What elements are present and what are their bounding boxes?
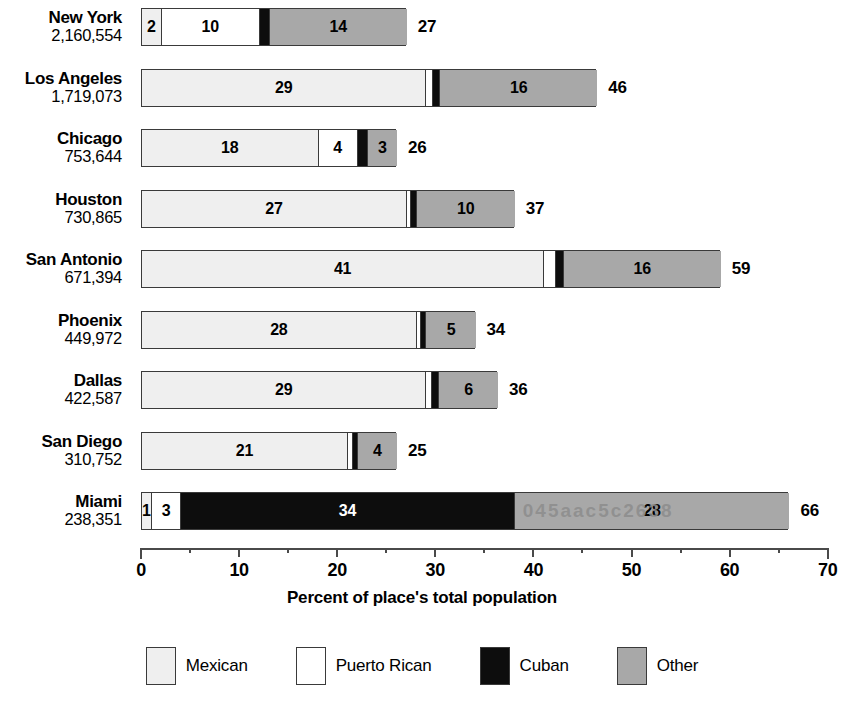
row-total-label: 37 (526, 190, 545, 228)
segment-value-label: 1 (142, 503, 151, 519)
bar-segment-mexican[interactable]: 41 (142, 251, 544, 287)
row-label: Dallas422,587 (0, 365, 128, 415)
axis-tick-label: 30 (426, 560, 445, 581)
city-population: 730,865 (64, 209, 122, 227)
row-label: New York2,160,554 (0, 2, 128, 52)
bar-segment-cuban[interactable] (433, 70, 440, 106)
bar-segment-other[interactable]: 4 (358, 433, 397, 469)
bar-segment-mexican[interactable]: 29 (142, 372, 426, 408)
bar-segment-puerto-rican[interactable]: 3 (152, 493, 181, 529)
stacked-bar[interactable]: 1334045aac5c263828 (141, 492, 788, 530)
row-label: San Antonio671,394 (0, 244, 128, 294)
bar-segment-puerto-rican[interactable]: 4 (319, 130, 358, 166)
bar-segment-other[interactable]: 6 (439, 372, 498, 408)
city-population: 422,587 (64, 390, 122, 408)
stacked-bar[interactable]: 296 (141, 371, 497, 409)
row-total-label: 25 (408, 432, 427, 470)
legend-swatch-mexican (146, 647, 176, 685)
bar-segment-other[interactable]: 3 (368, 130, 397, 166)
bar-row: Dallas422,58729636 (0, 365, 844, 415)
segment-value-label: 14 (329, 19, 346, 35)
bar-segment-other[interactable]: 16 (440, 70, 597, 106)
axis-tick (140, 548, 142, 559)
legend-item[interactable]: Puerto Rican (296, 647, 432, 685)
row-total-label: 27 (418, 8, 437, 46)
stacked-bar[interactable]: 2710 (141, 190, 514, 228)
axis-tick (581, 548, 583, 553)
bar-segment-other[interactable]: 5 (426, 312, 475, 348)
bar-segment-mexican[interactable]: 27 (142, 191, 407, 227)
city-population: 1,719,073 (51, 88, 122, 106)
bar-segment-cuban[interactable]: 1 (260, 9, 270, 45)
legend-item[interactable]: Mexican (146, 647, 248, 685)
segment-value-label: 28 (270, 322, 287, 338)
city-name: Dallas (74, 372, 122, 390)
stacked-bar[interactable]: 4116 (141, 250, 720, 288)
axis-tick (680, 548, 682, 553)
axis-tick (287, 548, 289, 553)
axis-tick (729, 548, 731, 557)
row-label: San Diego310,752 (0, 426, 128, 476)
x-axis-title: Percent of place's total population (0, 588, 844, 608)
bar-segment-other[interactable]: 045aac5c263828 (515, 493, 790, 529)
stacked-bar[interactable]: 1843 (141, 129, 396, 167)
city-name: Miami (75, 493, 122, 511)
city-name: Houston (55, 191, 122, 209)
axis-tick (631, 548, 633, 557)
segment-value-label: 27 (265, 201, 282, 217)
bar-segment-mexican[interactable]: 18 (142, 130, 319, 166)
legend-item[interactable]: Cuban (480, 647, 569, 685)
stacked-bar[interactable]: 210114 (141, 8, 406, 46)
bar-segment-cuban[interactable] (556, 251, 564, 287)
bar-segment-mexican[interactable]: 21 (142, 433, 348, 469)
bar-segment-cuban[interactable]: 34 (181, 493, 515, 529)
bar-segment-puerto-rican[interactable] (426, 70, 433, 106)
city-population: 753,644 (64, 148, 122, 166)
bar-segment-puerto-rican[interactable]: 10 (162, 9, 260, 45)
axis-tick (336, 548, 338, 557)
segment-value-label: 3 (162, 503, 171, 519)
bar-segment-mexican[interactable]: 2 (142, 9, 162, 45)
stacked-bar[interactable]: 214 (141, 432, 396, 470)
bar-segment-other[interactable]: 14 (270, 9, 407, 45)
bar-segment-mexican[interactable]: 29 (142, 70, 426, 106)
bar-segment-other[interactable]: 10 (417, 191, 515, 227)
legend-label: Mexican (186, 656, 248, 676)
legend-swatch-cuban (480, 647, 510, 685)
axis-tick-label: 70 (818, 560, 837, 581)
stacked-bar[interactable]: 285 (141, 311, 475, 349)
row-label: Los Angeles1,719,073 (0, 63, 128, 113)
city-population: 449,972 (64, 330, 122, 348)
city-name: Chicago (57, 130, 122, 148)
city-name: Phoenix (58, 312, 122, 330)
city-name: San Antonio (26, 251, 122, 269)
segment-value-label: 21 (236, 443, 253, 459)
axis-tick-label: 0 (136, 560, 146, 581)
legend-item[interactable]: Other (617, 647, 699, 685)
stacked-bar[interactable]: 2916 (141, 69, 596, 107)
segment-value-label: 4 (333, 140, 342, 156)
bar-segment-cuban[interactable] (432, 372, 439, 408)
bar-segment-other[interactable]: 16 (564, 251, 721, 287)
bar-row: Chicago753,644184326 (0, 123, 844, 173)
segment-value-label: 29 (275, 382, 292, 398)
bar-row: San Antonio671,394411659 (0, 244, 844, 294)
bar-segment-puerto-rican[interactable] (544, 251, 556, 287)
bar-row: Houston730,865271037 (0, 184, 844, 234)
axis-tick-label: 40 (524, 560, 543, 581)
segment-value-label: 10 (457, 201, 474, 217)
bar-segment-mexican[interactable]: 28 (142, 312, 417, 348)
axis-tick (483, 548, 485, 553)
row-total-label: 66 (800, 492, 819, 530)
bar-row: New York2,160,55421011427 (0, 2, 844, 52)
row-label: Chicago753,644 (0, 123, 128, 173)
axis-tick-label: 60 (720, 560, 739, 581)
bar-segment-cuban[interactable] (358, 130, 368, 166)
chart-legend: MexicanPuerto RicanCubanOther (0, 642, 844, 690)
legend-label: Puerto Rican (336, 656, 432, 676)
segment-value-label: 10 (201, 19, 218, 35)
bar-segment-mexican[interactable]: 1 (142, 493, 152, 529)
axis-tick (385, 548, 387, 553)
city-population: 310,752 (64, 451, 122, 469)
row-total-label: 34 (487, 311, 506, 349)
